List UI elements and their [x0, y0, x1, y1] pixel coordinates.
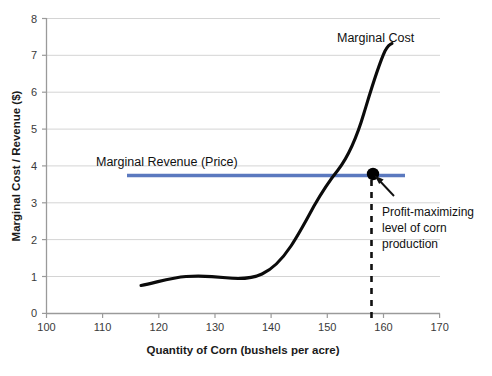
x-tick-label-110: 110 [94, 321, 112, 333]
marginal-revenue-label: Marginal Revenue (Price) [96, 155, 238, 169]
y-axis-tick-labels: 8 7 6 5 4 3 2 1 0 [31, 13, 37, 320]
y-tick-label-6: 6 [31, 86, 37, 98]
marginal-cost-label: Marginal Cost [337, 31, 415, 45]
y-tick-label-1: 1 [31, 271, 37, 283]
x-tick-label-170: 170 [430, 321, 448, 333]
profit-max-annotation-line-1: Profit-maximizing [382, 205, 474, 219]
y-tick-label-4: 4 [31, 160, 37, 172]
profit-max-annotation-line-3: production [382, 237, 438, 251]
x-tick-label-120: 120 [150, 321, 168, 333]
chart-background [0, 0, 492, 376]
y-tick-label-8: 8 [31, 13, 37, 25]
x-tick-label-160: 160 [374, 321, 392, 333]
x-tick-label-150: 150 [318, 321, 336, 333]
chart-container: 8 7 6 5 4 3 2 1 0 100 110 120 130 [0, 0, 492, 376]
x-tick-label-130: 130 [206, 321, 224, 333]
x-axis-title: Quantity of Corn (bushels per acre) [147, 344, 340, 356]
y-tick-label-5: 5 [31, 123, 37, 135]
profit-max-annotation-line-2: level of corn [382, 221, 447, 235]
y-axis-title: Marginal Cost / Revenue ($) [10, 90, 22, 241]
x-tick-label-140: 140 [262, 321, 280, 333]
y-tick-label-0: 0 [31, 307, 37, 319]
x-tick-label-100: 100 [37, 321, 55, 333]
marginal-cost-revenue-chart: 8 7 6 5 4 3 2 1 0 100 110 120 130 [0, 0, 492, 376]
y-tick-label-3: 3 [31, 197, 37, 209]
y-tick-label-2: 2 [31, 234, 37, 246]
y-tick-label-7: 7 [31, 49, 37, 61]
